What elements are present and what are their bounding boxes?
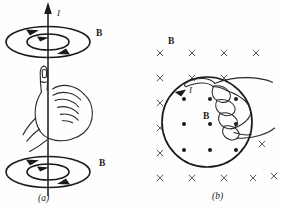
current-label-i-loop: I xyxy=(189,86,192,95)
field-into-page-mark xyxy=(221,175,227,181)
current-label-i: I xyxy=(57,9,60,18)
panel-b: B B I (b) xyxy=(141,0,281,212)
panel-b-drawing xyxy=(141,0,281,212)
right-hand-fist-thumb-up xyxy=(23,66,92,151)
field-into-page-mark xyxy=(189,175,195,181)
panel-a-drawing xyxy=(0,0,141,212)
field-label-b-top: B xyxy=(96,29,102,39)
field-into-page-mark xyxy=(157,75,163,81)
panel-a: B B I (a) xyxy=(0,0,141,212)
field-into-page-mark xyxy=(250,175,256,181)
field-into-page-mark xyxy=(253,50,259,56)
field-into-page-mark xyxy=(259,141,265,147)
wire-with-current-arrow xyxy=(44,2,52,196)
field-into-page-mark xyxy=(157,150,163,156)
field-out-of-page-mark xyxy=(234,148,238,152)
field-into-page-mark xyxy=(157,175,163,181)
field-into-page-crosses xyxy=(157,50,277,181)
field-into-page-mark xyxy=(157,100,163,106)
field-into-page-mark xyxy=(157,50,163,56)
physics-figure-right-hand-rule: B B I (a) xyxy=(0,0,281,212)
panel-b-caption: (b) xyxy=(212,192,223,202)
panel-a-caption: (a) xyxy=(38,194,49,204)
field-out-of-page-mark xyxy=(182,97,186,101)
right-hand-curled-thumb-out xyxy=(185,78,275,140)
field-into-page-mark xyxy=(189,50,195,56)
field-out-of-page-mark xyxy=(182,122,186,126)
field-out-of-page-dots xyxy=(182,97,238,152)
field-label-b-outside: B xyxy=(168,37,174,47)
field-out-of-page-mark xyxy=(208,122,212,126)
field-label-b-inside: B xyxy=(203,112,209,122)
field-out-of-page-mark xyxy=(182,148,186,152)
field-out-of-page-mark xyxy=(208,97,212,101)
field-out-of-page-mark xyxy=(208,148,212,152)
field-out-of-page-mark xyxy=(234,97,238,101)
field-into-page-mark xyxy=(221,50,227,56)
current-loop-circle xyxy=(162,77,252,167)
field-label-b-bottom: B xyxy=(99,159,105,169)
field-into-page-mark xyxy=(271,173,277,179)
